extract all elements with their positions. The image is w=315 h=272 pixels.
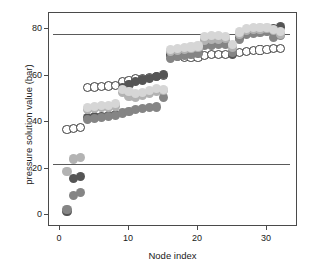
x-tick-label: 20: [192, 233, 202, 243]
data-point: [76, 153, 85, 162]
y-tick-label: 40: [16, 116, 42, 126]
x-tick-label: 30: [261, 233, 271, 243]
data-point: [193, 41, 202, 50]
plot-area: [48, 12, 297, 226]
data-point: [76, 172, 85, 181]
y-tick-label: 20: [16, 163, 42, 173]
pressure-solution-scatter-figure: pressure solution value (bar) Node index…: [0, 0, 315, 272]
x-tick-label: 10: [123, 233, 133, 243]
x-tick-mark: [197, 226, 198, 230]
data-point: [152, 102, 161, 111]
data-point: [76, 123, 85, 132]
data-point: [62, 205, 71, 214]
x-tick-label: 0: [57, 233, 62, 243]
y-tick-label: 60: [16, 70, 42, 80]
x-tick-mark: [266, 226, 267, 230]
y-tick-label: 80: [16, 23, 42, 33]
data-point: [276, 44, 285, 53]
data-point: [111, 99, 120, 108]
x-axis-label: Node index: [48, 250, 297, 261]
data-point: [221, 32, 230, 41]
x-tick-mark: [59, 226, 60, 230]
y-tick-label: 0: [16, 209, 42, 219]
data-point: [76, 188, 85, 197]
lower-pressure-limit: [53, 164, 290, 165]
x-tick-mark: [128, 226, 129, 230]
data-point: [62, 167, 71, 176]
